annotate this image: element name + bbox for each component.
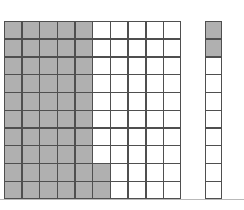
grid-cell-shaded bbox=[23, 93, 39, 109]
grid-cell-shaded bbox=[40, 111, 56, 127]
grid-cell-shaded bbox=[93, 182, 109, 198]
grid-cell-empty bbox=[206, 129, 221, 145]
grid-cell-shaded bbox=[23, 164, 39, 180]
grid-cell-empty bbox=[206, 58, 221, 74]
grid-cell-empty bbox=[93, 58, 109, 74]
grid-cell-shaded bbox=[76, 129, 92, 145]
bottom-separator-rule bbox=[0, 199, 244, 200]
grid-cell-shaded bbox=[58, 58, 74, 74]
grid-cell-empty bbox=[164, 58, 180, 74]
grid-cell-shaded bbox=[58, 146, 74, 162]
grid-cell-shaded bbox=[5, 22, 21, 38]
grid-cell-shaded bbox=[58, 182, 74, 198]
grid-cell-empty bbox=[129, 58, 145, 74]
grid-cell-shaded bbox=[40, 22, 56, 38]
grid-cell-empty bbox=[206, 93, 221, 109]
grid-cell-shaded bbox=[23, 146, 39, 162]
grid-cell-shaded bbox=[5, 182, 21, 198]
grid-cell-shaded bbox=[23, 182, 39, 198]
grid-cell-empty bbox=[129, 146, 145, 162]
grid-cell-empty bbox=[129, 164, 145, 180]
grid-cell-shaded bbox=[58, 75, 74, 91]
grid-cell-empty bbox=[111, 22, 127, 38]
grid-cell-shaded bbox=[40, 75, 56, 91]
grid-cell-empty bbox=[111, 182, 127, 198]
grid-cell-empty bbox=[129, 75, 145, 91]
grid-cell-empty bbox=[164, 93, 180, 109]
grid-cell-empty bbox=[93, 22, 109, 38]
grid-cell-shaded bbox=[76, 146, 92, 162]
grid-cell-shaded bbox=[23, 40, 39, 56]
grid-cell-empty bbox=[206, 111, 221, 127]
grid-cell-empty bbox=[129, 40, 145, 56]
grid-cell-empty bbox=[147, 164, 163, 180]
grid-cell-shaded bbox=[58, 40, 74, 56]
grid-cell-shaded bbox=[40, 182, 56, 198]
grid-cell-shaded bbox=[5, 129, 21, 145]
hundred-square-grid bbox=[4, 21, 181, 199]
grid-cell-empty bbox=[111, 75, 127, 91]
grid-cell-shaded bbox=[40, 164, 56, 180]
grid-cell-empty bbox=[147, 93, 163, 109]
grid-cell-empty bbox=[111, 146, 127, 162]
grid-cell-shaded bbox=[76, 22, 92, 38]
grid-cell-shaded bbox=[5, 40, 21, 56]
grid-cell-empty bbox=[164, 146, 180, 162]
grid-cell-empty bbox=[147, 129, 163, 145]
tens-strip-grid bbox=[205, 21, 222, 199]
grid-cell-shaded bbox=[76, 182, 92, 198]
grid-cell-shaded bbox=[206, 40, 221, 56]
grid-cell-shaded bbox=[76, 75, 92, 91]
grid-cell-empty bbox=[164, 40, 180, 56]
grid-cell-empty bbox=[206, 182, 221, 198]
grid-cell-shaded bbox=[5, 58, 21, 74]
grid-cell-empty bbox=[129, 129, 145, 145]
grid-cell-shaded bbox=[40, 93, 56, 109]
grid-cell-empty bbox=[129, 111, 145, 127]
grid-cell-empty bbox=[93, 111, 109, 127]
grid-cell-empty bbox=[206, 75, 221, 91]
grid-cell-shaded bbox=[206, 22, 221, 38]
grid-cell-empty bbox=[111, 164, 127, 180]
grid-cell-empty bbox=[129, 182, 145, 198]
grid-cell-shaded bbox=[23, 111, 39, 127]
grid-cell-shaded bbox=[76, 164, 92, 180]
grid-cell-shaded bbox=[5, 146, 21, 162]
grid-cell-shaded bbox=[76, 111, 92, 127]
grid-cell-empty bbox=[147, 40, 163, 56]
grid-cell-empty bbox=[164, 129, 180, 145]
grid-cell-shaded bbox=[5, 164, 21, 180]
diagram-canvas bbox=[0, 0, 244, 210]
grid-cell-empty bbox=[93, 75, 109, 91]
grid-cell-empty bbox=[164, 22, 180, 38]
grid-cell-empty bbox=[147, 22, 163, 38]
grid-cell-empty bbox=[206, 146, 221, 162]
grid-cell-empty bbox=[206, 164, 221, 180]
grid-cell-empty bbox=[111, 58, 127, 74]
grid-cell-empty bbox=[111, 129, 127, 145]
grid-cell-shaded bbox=[23, 58, 39, 74]
grid-cell-shaded bbox=[76, 93, 92, 109]
grid-cell-empty bbox=[93, 40, 109, 56]
grid-cell-shaded bbox=[5, 93, 21, 109]
grid-cell-empty bbox=[147, 182, 163, 198]
grid-cell-shaded bbox=[58, 129, 74, 145]
grid-cell-shaded bbox=[5, 111, 21, 127]
grid-cell-empty bbox=[164, 75, 180, 91]
grid-cell-empty bbox=[93, 146, 109, 162]
grid-cell-empty bbox=[111, 40, 127, 56]
grid-cell-shaded bbox=[40, 129, 56, 145]
grid-cell-empty bbox=[147, 146, 163, 162]
grid-cell-empty bbox=[164, 111, 180, 127]
grid-cell-empty bbox=[129, 93, 145, 109]
grid-cell-shaded bbox=[40, 146, 56, 162]
grid-cell-shaded bbox=[23, 75, 39, 91]
grid-cell-empty bbox=[93, 129, 109, 145]
grid-cell-empty bbox=[111, 93, 127, 109]
grid-cell-shaded bbox=[23, 129, 39, 145]
grid-cell-empty bbox=[164, 182, 180, 198]
grid-cell-empty bbox=[129, 22, 145, 38]
grid-cell-shaded bbox=[58, 164, 74, 180]
grid-cell-shaded bbox=[76, 40, 92, 56]
grid-cell-empty bbox=[147, 75, 163, 91]
